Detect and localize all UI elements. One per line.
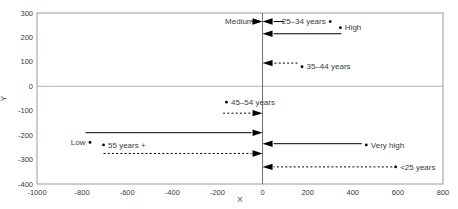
data-point-marker bbox=[329, 20, 332, 23]
data-point-label: Low bbox=[71, 138, 86, 147]
data-point-marker bbox=[89, 141, 92, 144]
projection-arrowhead bbox=[263, 60, 273, 66]
data-point-marker bbox=[394, 166, 397, 169]
y-tick-label: 200 bbox=[20, 33, 33, 42]
y-tick-label: -300 bbox=[18, 155, 33, 164]
x-tick-label: 0 bbox=[260, 188, 264, 197]
projection-arrowhead bbox=[263, 140, 273, 146]
x-tick-label: 800 bbox=[437, 188, 450, 197]
data-point-marker bbox=[257, 20, 260, 23]
projection-arrowhead bbox=[263, 31, 273, 37]
data-point-label: High bbox=[345, 23, 361, 32]
x-tick-label: -1000 bbox=[27, 188, 46, 197]
x-tick-label: 400 bbox=[347, 188, 360, 197]
data-point-label: 55 years + bbox=[108, 141, 146, 150]
data-point-marker bbox=[102, 144, 105, 147]
data-point-marker bbox=[365, 144, 368, 147]
y-tick-label: 300 bbox=[20, 9, 33, 18]
x-tick-label: -800 bbox=[75, 188, 90, 197]
projection-arrowhead bbox=[253, 150, 263, 156]
figure: -1000-800-600-400-2000200400600800300200… bbox=[0, 0, 458, 209]
x-axis-title: X bbox=[237, 195, 243, 204]
y-tick-label: 0 bbox=[29, 82, 33, 91]
data-point-marker bbox=[301, 65, 304, 68]
scatter-chart: -1000-800-600-400-2000200400600800300200… bbox=[0, 0, 458, 209]
y-tick-label: -100 bbox=[18, 106, 33, 115]
projection-arrowhead bbox=[263, 164, 273, 170]
y-tick-label: 100 bbox=[20, 57, 33, 66]
x-tick-label: -200 bbox=[210, 188, 225, 197]
data-point-label: <25 years bbox=[400, 163, 435, 172]
data-point-marker bbox=[225, 101, 228, 104]
data-point-label: 45–54 years bbox=[231, 98, 275, 107]
projection-arrowhead bbox=[263, 18, 273, 24]
x-tick-label: -600 bbox=[120, 188, 135, 197]
y-tick-label: -200 bbox=[18, 131, 33, 140]
x-tick-label: 600 bbox=[392, 188, 405, 197]
data-point-label: 35–44 years bbox=[307, 62, 351, 71]
x-tick-label: -400 bbox=[165, 188, 180, 197]
x-tick-label: 200 bbox=[301, 188, 314, 197]
data-point-marker bbox=[339, 26, 342, 29]
projection-arrowhead bbox=[253, 130, 263, 136]
projection-arrowhead bbox=[253, 110, 263, 116]
data-point-label: Medium bbox=[225, 17, 254, 26]
y-tick-label: -400 bbox=[18, 180, 33, 189]
y-axis-title: Y bbox=[0, 95, 8, 101]
data-point-label: 25–34 years bbox=[282, 17, 326, 26]
data-point-label: Very high bbox=[371, 141, 404, 150]
